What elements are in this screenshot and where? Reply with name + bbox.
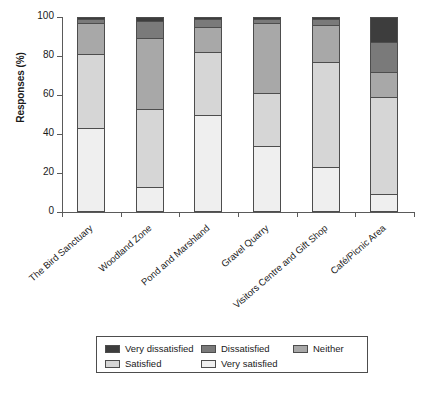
legend-swatch [201, 345, 216, 353]
legend-item: Satisfied [105, 358, 161, 369]
bar-segment [194, 27, 222, 52]
bar-segment [253, 146, 281, 212]
y-tick-label: 40 [24, 127, 54, 138]
bar-segment [370, 72, 398, 97]
bar-segment [253, 93, 281, 146]
bar-segment [312, 167, 340, 212]
bar-segment [136, 109, 164, 187]
bar-segment [136, 21, 164, 39]
x-tick [238, 212, 239, 217]
legend-item: Very dissatisfied [105, 343, 194, 354]
bar-segment [370, 97, 398, 195]
x-tick [355, 212, 356, 217]
legend: Very dissatisfiedDissatisfiedNeitherSati… [96, 336, 368, 373]
bar-stack [253, 17, 281, 212]
bar-segment [370, 17, 398, 42]
y-tick: 20 [57, 173, 62, 174]
bar-stack [77, 17, 105, 212]
legend-swatch [293, 345, 308, 353]
bar-segment [136, 38, 164, 108]
y-tick: 80 [57, 56, 62, 57]
x-tick [62, 212, 63, 217]
bar-segment [77, 54, 105, 128]
x-tick [121, 212, 122, 217]
bar-segment [77, 23, 105, 54]
x-tick [179, 212, 180, 217]
bar-segment [136, 187, 164, 212]
plot-area: 020406080100 [62, 17, 414, 212]
y-tick-label: 20 [24, 166, 54, 177]
bar-segment [194, 19, 222, 27]
bar-segment [194, 52, 222, 114]
y-tick: 60 [57, 95, 62, 96]
legend-swatch [105, 345, 120, 353]
y-axis-line [62, 17, 63, 213]
y-tick-label: 100 [24, 10, 54, 21]
y-tick-label: 60 [24, 88, 54, 99]
legend-swatch [105, 360, 120, 368]
bar-segment [312, 62, 340, 167]
y-tick: 40 [57, 134, 62, 135]
bar-stack [312, 17, 340, 212]
y-tick-label: 80 [24, 49, 54, 60]
x-tick [414, 212, 415, 217]
bar-segment [370, 42, 398, 71]
legend-swatch [201, 360, 216, 368]
y-tick: 100 [57, 17, 62, 18]
legend-item: Neither [293, 343, 344, 354]
bar-segment [194, 115, 222, 213]
legend-label: Dissatisfied [221, 343, 270, 354]
bar-stack [136, 17, 164, 212]
bar-stack [370, 17, 398, 212]
legend-label: Satisfied [125, 358, 161, 369]
y-tick-label: 0 [24, 205, 54, 216]
legend-label: Very satisfied [221, 358, 278, 369]
legend-label: Very dissatisfied [125, 343, 194, 354]
bar-segment [370, 194, 398, 212]
legend-item: Very satisfied [201, 358, 278, 369]
bar-segment [77, 128, 105, 212]
bar-segment [253, 23, 281, 93]
x-tick [297, 212, 298, 217]
bar-stack [194, 17, 222, 212]
bar-segment [312, 25, 340, 62]
legend-item: Dissatisfied [201, 343, 270, 354]
legend-label: Neither [313, 343, 344, 354]
stacked-bar-chart: Responses (%) 020406080100 The Bird Sanc… [0, 0, 429, 393]
